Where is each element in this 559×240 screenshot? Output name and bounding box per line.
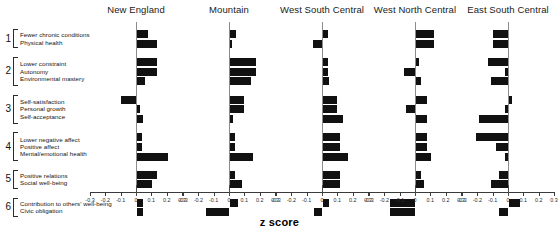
bar [416,153,431,161]
group-number: 3 [0,104,11,114]
panel-west-north-central [369,22,461,192]
bar [491,77,508,85]
axis-tick-label: -0.1 [485,197,501,203]
axis-tick [508,185,509,196]
figure-panel-chart: New EnglandMountainWest South CentralWes… [0,0,559,240]
axis-tick [477,192,478,196]
axis-tick [353,192,354,196]
axis-tick-label: 0.2 [252,197,268,203]
bar [505,68,508,76]
category-label: Positive affect [20,143,87,150]
axis-tick [462,192,463,196]
bar [406,105,415,113]
axis-tick-label: -0.1 [113,197,129,203]
panel-title-mountain: Mountain [177,4,281,15]
bar [505,153,508,161]
axis-tick-label: -0.3 [175,197,191,203]
bar [230,105,244,113]
category-label: Civic obligation [20,207,112,214]
axis-tick [446,192,447,196]
group-number: 4 [0,142,11,152]
category-label: Self-acceptance [20,113,65,120]
bar [137,153,168,161]
category-label: Environmental mastery [20,75,84,82]
group-number: 2 [0,66,11,76]
axis-tick-label: -0.2 [376,197,392,203]
group-bracket [13,29,18,48]
bar [230,153,253,161]
x-axis-label-text: z score [260,216,299,228]
axis-tick [523,192,524,196]
bar [323,115,343,123]
axis-tick [369,192,370,196]
axis-tick-label: 0 [221,197,237,203]
bar [476,133,508,141]
bar [137,105,140,113]
axis-tick-label: 0.1 [236,197,252,203]
bar [323,153,348,161]
panel-title-east-south-central: East South Central [456,4,559,15]
bar [323,143,340,151]
axis-tick [337,192,338,196]
axis-tick [539,192,540,196]
bar [323,96,337,104]
axis-tick [430,192,431,196]
bar [137,58,157,66]
group-bracket [13,170,18,189]
bar [313,40,322,48]
x-axis-east-south-central: -0.3-0.2-0.100.10.20.3 [462,192,554,198]
axis-tick [229,185,230,196]
axis-tick-label: 0.1 [329,197,345,203]
axis-tick [260,192,261,196]
bar [137,77,145,85]
panel-title-west-south-central: West South Central [270,4,374,15]
category-group-3: 3Self-satisfactionPersonal growthSelf-ac… [0,95,65,124]
axis-tick [322,185,323,196]
axis-tick-label: 0.1 [422,197,438,203]
category-group-4: 4Lower negative affectPositive affectMen… [0,132,87,161]
x-axis-west-south-central: -0.3-0.2-0.100.10.20.3 [276,192,368,198]
axis-tick [554,192,555,196]
bar [323,171,340,179]
axis-tick-label: -0.3 [268,197,284,203]
bar [493,30,508,38]
bar [230,133,235,141]
axis-tick-label: -0.3 [82,197,98,203]
bar [491,180,508,188]
bar [137,68,157,76]
axis-tick-label: -0.3 [454,197,470,203]
group-bracket [13,57,18,86]
group-number: 6 [0,202,11,212]
bar [137,30,148,38]
bar [416,77,421,85]
axis-tick-label: 0.1 [143,197,159,203]
axis-tick [291,192,292,196]
bar [416,133,427,141]
bar [230,30,236,38]
group-items: Positive relationsSocial well-being [20,172,68,187]
bar [137,171,157,179]
axis-tick [105,192,106,196]
axis-tick-label: 0.3 [546,197,559,203]
category-label: Lower constraint [20,60,84,67]
axis-tick [90,192,91,196]
bar [499,171,508,179]
bar [121,96,136,104]
category-label: Autonomy [20,68,84,75]
axis-tick-label: 0.2 [531,197,547,203]
panel-title-west-north-central: West North Central [363,4,467,15]
bar [230,58,256,66]
bar [404,68,415,76]
bar [323,68,328,76]
bar [496,143,508,151]
axis-tick [493,192,494,196]
bar [416,40,434,48]
bar [323,30,328,38]
category-label: Fewer chronic conditions [20,31,90,38]
bar [137,40,157,48]
category-label: Social well-being [20,179,68,186]
panel-new-england [90,22,182,192]
axis-tick [244,192,245,196]
category-label: Positive relations [20,172,68,179]
bar [488,58,508,66]
